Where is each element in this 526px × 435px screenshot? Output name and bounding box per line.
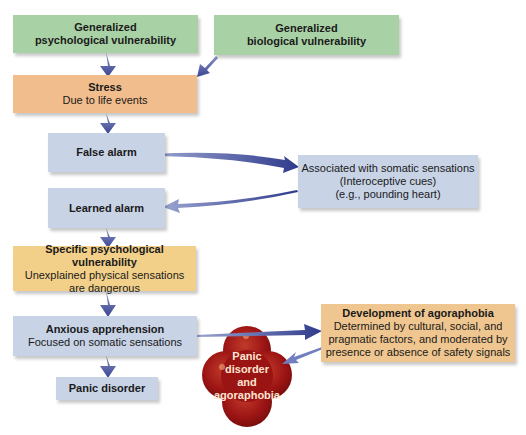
node-title-line2: psychological vulnerability bbox=[35, 34, 176, 47]
node-generalized-biological-vulnerability: Generalized biological vulnerability bbox=[214, 15, 399, 55]
cloud-line4: agoraphobia bbox=[203, 389, 291, 402]
cloud-line3: and bbox=[203, 376, 291, 389]
node-line1: Unexplained physical sensations bbox=[25, 269, 185, 282]
node-title: Specific psychological vulnerability bbox=[13, 243, 196, 269]
node-title: Stress bbox=[88, 81, 122, 94]
node-title: Generalized bbox=[74, 21, 136, 34]
node-title: Learned alarm bbox=[69, 202, 144, 215]
arrow-genpsych-to-stress bbox=[100, 52, 116, 77]
node-generalized-psychological-vulnerability: Generalized psychological vulnerability bbox=[13, 15, 198, 53]
arrow-falsealarm-to-somatic bbox=[153, 153, 299, 173]
arrow-anxious-to-panicdisorder bbox=[100, 355, 116, 378]
cloud-line1: Panic bbox=[203, 350, 291, 363]
cloud-line2: disorder bbox=[203, 363, 291, 376]
node-stress: Stress Due to life events bbox=[13, 75, 197, 113]
node-title: Anxious apprehension bbox=[46, 323, 165, 336]
node-panic-disorder-and-agoraphobia: Panic disorder and agoraphobia bbox=[203, 350, 291, 402]
arrow-genbio-to-stress bbox=[197, 56, 218, 77]
node-line3: presence or absence of safety signals bbox=[326, 346, 511, 359]
node-title: Development of agoraphobia bbox=[342, 307, 494, 320]
node-anxious-apprehension: Anxious apprehension Focused on somatic … bbox=[13, 316, 197, 356]
node-subtitle: Due to life events bbox=[63, 94, 148, 107]
node-title: False alarm bbox=[76, 146, 137, 159]
node-panic-disorder: Panic disorder bbox=[56, 377, 158, 400]
node-title: Generalized bbox=[275, 22, 337, 35]
node-line3: (e.g., pounding heart) bbox=[335, 188, 440, 201]
node-line2: are dangerous bbox=[69, 282, 140, 295]
node-somatic-sensations: Associated with somatic sensations (Inte… bbox=[298, 155, 478, 208]
node-title-line2: biological vulnerability bbox=[247, 35, 366, 48]
node-development-of-agoraphobia: Development of agoraphobia Determined by… bbox=[321, 304, 515, 362]
arrow-somatic-to-learnedalarm bbox=[163, 190, 298, 213]
node-subtitle: Focused on somatic sensations bbox=[28, 336, 182, 349]
arrow-stress-to-falsealarm bbox=[100, 113, 116, 134]
node-line2: (Interoceptive cues) bbox=[340, 175, 437, 188]
arrow-specific-to-anxious bbox=[100, 291, 116, 317]
node-line1: Associated with somatic sensations bbox=[301, 162, 474, 175]
node-specific-psychological-vulnerability: Specific psychological vulnerability Une… bbox=[13, 246, 196, 291]
node-false-alarm: False alarm bbox=[48, 133, 165, 172]
node-line2: pragmatic factors, and moderated by bbox=[328, 333, 507, 346]
node-learned-alarm: Learned alarm bbox=[48, 188, 165, 228]
node-line1: Determined by cultural, social, and bbox=[334, 320, 503, 333]
node-title: Panic disorder bbox=[69, 382, 145, 395]
